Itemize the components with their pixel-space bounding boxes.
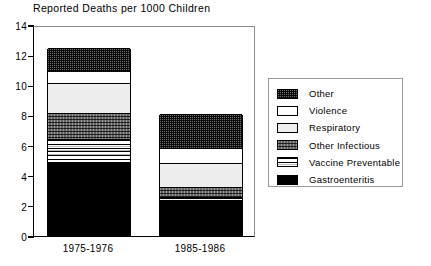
legend-row: Respiratory	[277, 119, 400, 136]
bar-segment-other-infectious	[48, 113, 130, 139]
legend-items: OtherViolenceRespiratoryOther Infectious…	[277, 85, 400, 188]
chart-figure: Reported Deaths per 1000 Children 141210…	[0, 0, 431, 266]
legend-row: Other Infectious	[277, 137, 400, 154]
bar-1985-1986	[159, 115, 243, 236]
legend-swatch-other-infectious	[277, 140, 298, 150]
bar-segment-other	[48, 48, 130, 71]
legend-swatch-respiratory	[277, 123, 298, 133]
chart-title: Reported Deaths per 1000 Children	[33, 2, 210, 14]
y-axis-tick-label: 8	[21, 111, 27, 122]
bar-segment-gastroenteritis	[160, 200, 242, 235]
legend-label: Vaccine Preventable	[309, 157, 400, 168]
legend-label: Gastroenteritis	[309, 174, 375, 185]
legend-swatch-gastroenteritis	[277, 175, 298, 185]
legend-row: Violence	[277, 102, 400, 119]
legend-row: Gastroenteritis	[277, 171, 400, 188]
y-axis-tick-labels: 14121086420	[0, 26, 27, 237]
y-axis-tick-label: 4	[21, 171, 27, 182]
x-axis-tick-label: 1985-1986	[175, 243, 226, 254]
bar-segment-other	[160, 114, 242, 148]
legend-label: Violence	[309, 105, 347, 116]
legend-label: Other Infectious	[309, 140, 380, 151]
bar-segment-violence	[48, 71, 130, 83]
legend-row: Vaccine Preventable	[277, 154, 400, 171]
bar-1975-1976	[47, 49, 131, 236]
plot-frame	[33, 26, 255, 237]
bar-segment-vaccine-preventable	[160, 197, 242, 201]
x-axis-tick-label: 1975-1976	[63, 243, 114, 254]
legend-swatch-other	[277, 89, 298, 99]
y-axis-tick-label: 14	[15, 21, 27, 32]
bar-segment-respiratory	[48, 83, 130, 113]
plot-area	[34, 27, 254, 236]
chart-legend: OtherViolenceRespiratoryOther Infectious…	[268, 78, 403, 187]
legend-swatch-vaccine-preventable	[277, 157, 298, 167]
bar-segment-vaccine-preventable	[48, 139, 130, 162]
y-axis-tick-label: 0	[21, 232, 27, 243]
y-axis-tick-label: 10	[15, 81, 27, 92]
bar-segment-gastroenteritis	[48, 162, 130, 235]
bar-segment-violence	[160, 148, 242, 163]
legend-label: Other	[309, 88, 334, 99]
legend-label: Respiratory	[309, 122, 360, 133]
y-axis-tick-label: 12	[15, 51, 27, 62]
y-axis-tick-label: 2	[21, 201, 27, 212]
bar-segment-other-infectious	[160, 187, 242, 197]
bar-segment-respiratory	[160, 163, 242, 187]
legend-row: Other	[277, 85, 400, 102]
legend-swatch-violence	[277, 106, 298, 116]
y-axis-tick-label: 6	[21, 141, 27, 152]
